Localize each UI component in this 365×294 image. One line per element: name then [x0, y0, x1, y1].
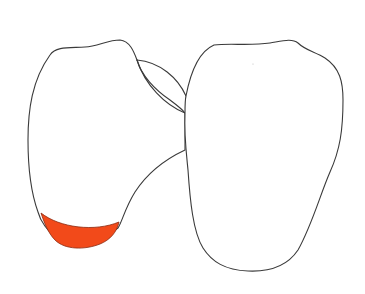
diagram-canvas	[0, 0, 365, 294]
right-lobe-shape	[185, 40, 343, 271]
left-lobe-shape	[28, 40, 185, 242]
faint-dot	[252, 63, 253, 64]
